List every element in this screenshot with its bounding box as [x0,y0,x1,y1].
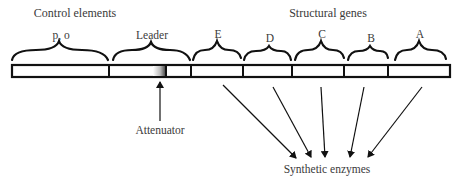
enzyme-arrows [223,85,422,158]
braces [12,41,446,60]
brace-a [395,41,446,60]
attenuator-label: Attenuator [135,124,184,136]
operon-diagram [0,0,459,185]
operon-bar [12,65,450,77]
arrow-c [321,87,325,157]
synthetic-enzymes-label: Synthetic enzymes [284,163,371,175]
arrow-b [350,87,364,157]
arrow-e [223,85,296,158]
arrow-a [368,87,422,157]
brace-d [244,46,291,60]
attenuator-region [153,66,166,76]
brace-e [193,41,241,60]
brace-c [295,41,344,60]
arrow-d [273,87,311,157]
brace-po [12,41,108,60]
brace-leader [113,42,190,60]
brace-b [348,46,388,60]
